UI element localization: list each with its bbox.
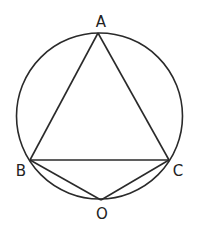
segment-co <box>101 160 169 200</box>
segment-ac <box>98 33 169 160</box>
segment-ab <box>30 33 98 160</box>
segments <box>30 33 169 200</box>
circumcircle <box>17 33 183 199</box>
label-a: A <box>96 13 107 31</box>
label-c: C <box>173 162 183 180</box>
segment-bo <box>30 160 101 200</box>
geometry-diagram: A B C O <box>0 0 200 246</box>
label-o: O <box>96 205 108 223</box>
label-b: B <box>16 162 26 180</box>
